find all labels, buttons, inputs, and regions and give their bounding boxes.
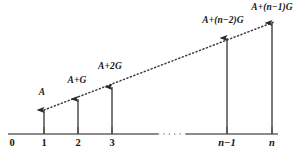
value-label-A-plus-n-1-G: A+(n−1)G	[251, 3, 293, 13]
cash-flow-figure: 0123n−1n AA+GA+2GA+(n−2)GA+(n−1)G	[0, 0, 299, 163]
figure-caption	[0, 154, 299, 163]
value-label-A: A	[39, 88, 45, 98]
axis-tick-label-3: 3	[109, 138, 114, 149]
gradient-trend-line	[44, 22, 274, 110]
value-label-A-plus-2G: A+2G	[98, 62, 122, 72]
axis-tick-label-5: n	[269, 138, 275, 149]
value-label-A-plus-n-2-G: A+(n−2)G	[202, 16, 244, 26]
gradient-trend-line-path	[44, 22, 274, 110]
period-axis	[8, 127, 278, 134]
axis-tick-label-0: 0	[9, 138, 14, 149]
axis-tick-label-2: 2	[75, 138, 80, 149]
axis-tick-label-4: n−1	[218, 138, 235, 149]
value-label-A-plus-G: A+G	[68, 76, 87, 86]
axis-tick-label-1: 1	[41, 138, 46, 149]
